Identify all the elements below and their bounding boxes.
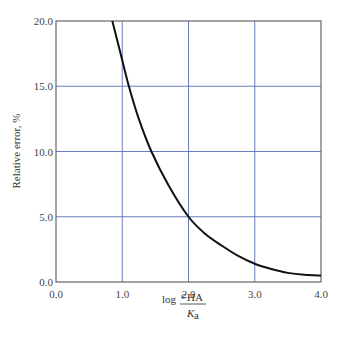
y-tick-label: 20.0 [34,15,54,27]
y-tick-label: 15.0 [34,80,54,92]
grid-lines [56,21,321,282]
y-axis-ticks: 0.05.010.015.020.0 [34,15,54,288]
svg-text:log: log [162,293,177,305]
svg-text:HA: HA [187,291,203,303]
y-axis-label: Relative error, % [10,114,22,189]
x-tick-label: 1.0 [115,288,129,300]
relative-error-curve [112,21,321,275]
y-tick-label: 0.0 [39,276,53,288]
svg-text:a: a [194,309,199,321]
y-tick-label: 5.0 [39,211,53,223]
y-tick-label: 10.0 [34,146,54,158]
x-axis-label: log c HA K a [162,289,206,321]
chart: 0.05.010.015.020.0 0.01.02.03.04.0 Relat… [0,0,342,343]
svg-text:c: c [181,289,186,301]
x-tick-label: 3.0 [248,288,262,300]
x-tick-label: 0.0 [49,288,63,300]
x-tick-label: 4.0 [314,288,328,300]
